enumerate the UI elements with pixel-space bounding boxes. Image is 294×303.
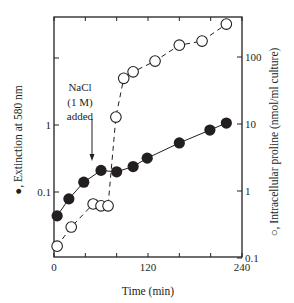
extinction-point [95,165,106,176]
proline-point [52,241,63,252]
right-y-tick-label: 1 [245,185,251,197]
extinction-point [111,166,122,177]
proline-point [197,36,208,47]
proline-point [174,40,185,51]
extinction-point [142,153,153,164]
annotation-text: NaCl [68,81,91,93]
right-y-tick-label: 0.1 [245,252,259,264]
extinction-point [221,117,232,128]
chart: 01202400.110.1110100 NaCl(1 M)added Time… [0,0,294,303]
proline-point [66,222,77,233]
arrow-down-icon [90,154,95,161]
extinction-point [52,210,63,221]
proline-point [150,56,161,67]
series-markers [52,19,232,252]
left-y-tick-label: 0.1 [37,186,51,198]
nacl-annotation: NaCl(1 M)added [67,81,95,161]
annotation-text: added [67,110,94,122]
proline-point [118,73,129,84]
right-y-axis-title: ○, Intracellular proline (nmol/ml cultur… [268,48,281,237]
extinction-point [78,177,89,188]
plot-border [54,17,242,257]
proline-line [57,24,226,246]
extinction-point [128,161,139,172]
extinction-line [57,123,226,216]
left-y-tick-label: 1 [46,119,52,131]
extinction-point [63,193,74,204]
proline-point [221,19,232,30]
right-y-tick-label: 100 [245,51,262,63]
left-y-axis-title: ●, Extinction at 580 nm [12,85,25,195]
axis-ticks [54,17,242,258]
plot-frame [54,17,242,257]
proline-point [128,67,139,78]
proline-point [103,201,114,212]
extinction-point [204,124,215,135]
x-axis-title: Time (min) [122,285,174,298]
right-y-tick-label: 10 [245,118,257,130]
x-tick-label: 120 [140,261,157,273]
extinction-point [174,137,185,148]
x-tick-label: 0 [51,261,57,273]
annotation-text: (1 M) [67,96,93,109]
proline-point [111,112,122,123]
series-lines [57,24,226,246]
